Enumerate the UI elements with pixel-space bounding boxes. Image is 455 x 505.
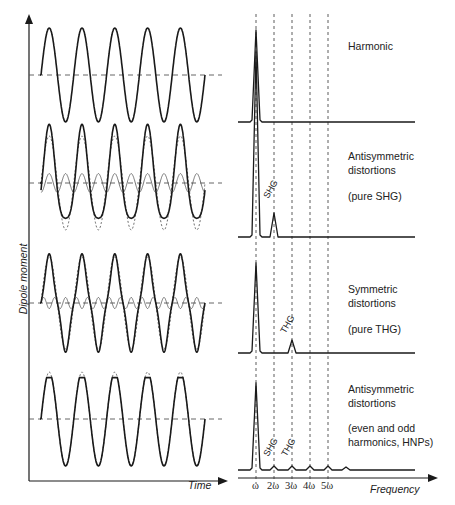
tick-w: ω: [252, 480, 259, 491]
tick-3w: 3ω: [285, 480, 297, 491]
dipole-waveform-row-4: [41, 378, 205, 466]
y-axis-arrow-icon: [25, 14, 33, 24]
x-axis-label-time: Time: [188, 479, 211, 492]
x-axis-time-arrow-icon: [218, 477, 228, 485]
spectrum-row-2: [238, 52, 415, 237]
row3-title2: distortions: [348, 297, 396, 310]
row4-subtitle: (even and odd: [348, 422, 415, 435]
row4-title: Antisymmetric: [348, 383, 414, 396]
row4-subtitle2: harmonics, HNPs): [348, 436, 433, 449]
row1-title: Harmonic: [348, 40, 393, 53]
row2-subtitle: (pure SHG): [348, 190, 402, 203]
dipole-waveform-row-2: [41, 124, 205, 218]
tick-4w: 4ω: [303, 480, 315, 491]
x-axis-frequency-arrow-icon: [428, 474, 438, 482]
row3-subtitle: (pure THG): [348, 323, 401, 336]
row2-title: Antisymmetric: [348, 150, 414, 163]
x-axis-label-frequency: Frequency: [370, 483, 420, 496]
tick-2w: 2ω: [267, 480, 279, 491]
tick-5w: 5ω: [321, 480, 333, 491]
y-axis-label: Dipole moment: [17, 234, 29, 324]
row4-title2: distortions: [348, 397, 396, 410]
row3-title: Symmetric: [348, 283, 398, 296]
row2-title2: distortions: [348, 164, 396, 177]
